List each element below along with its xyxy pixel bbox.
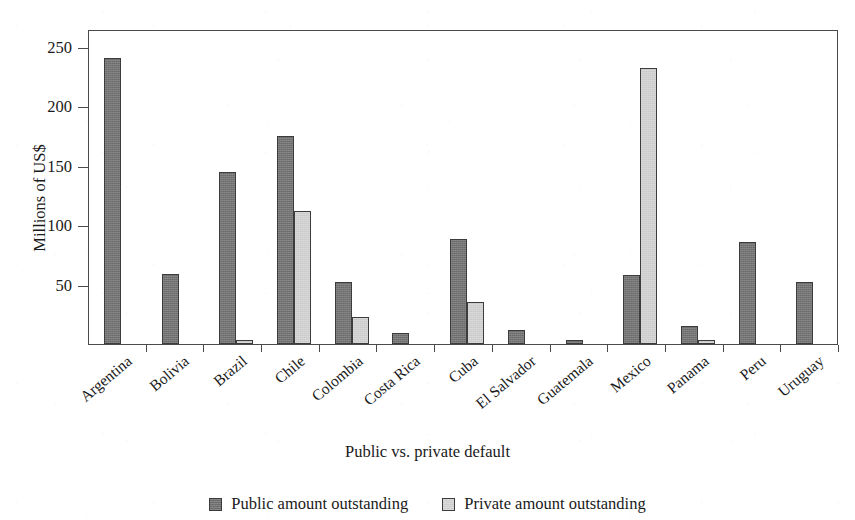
bar-private-chile: [294, 211, 311, 344]
legend-swatch-public-icon: [209, 498, 222, 511]
legend-swatch-private-icon: [442, 498, 455, 511]
x-axis-tick: [376, 345, 377, 352]
bar-private-colombia: [352, 317, 369, 344]
bar-private-panama: [698, 340, 715, 344]
y-axis-tick-label: 150: [30, 157, 72, 177]
y-axis-tick-label: 200: [30, 97, 72, 117]
bars-layer: [89, 31, 837, 344]
y-axis-tick: [78, 48, 89, 49]
bar-public-costa-rica: [392, 333, 409, 344]
bar-public-colombia: [335, 282, 352, 344]
y-axis-tick: [78, 167, 89, 168]
x-axis-tick: [203, 345, 204, 352]
x-axis-tick: [146, 345, 147, 352]
x-axis-tick: [319, 345, 320, 352]
bar-public-chile: [277, 136, 294, 344]
bar-public-cuba: [450, 239, 467, 344]
bar-public-uruguay: [796, 282, 813, 344]
bar-private-cuba: [467, 302, 484, 344]
bar-private-mexico: [640, 68, 657, 344]
bar-public-argentina: [104, 58, 121, 344]
bar-public-panama: [681, 326, 698, 344]
x-axis-tick: [434, 345, 435, 352]
x-axis-tick: [838, 345, 839, 352]
x-axis-tick: [550, 345, 551, 352]
x-axis-tick: [607, 345, 608, 352]
y-axis-tick: [78, 286, 89, 287]
x-axis-tick: [723, 345, 724, 352]
plot-area: [88, 30, 838, 345]
bar-public-brazil: [219, 172, 236, 344]
bar-public-peru: [739, 242, 756, 344]
y-axis-tick-label: 100: [30, 216, 72, 236]
x-axis-tick: [261, 345, 262, 352]
y-axis-tick-label: 50: [30, 276, 72, 296]
x-axis-tick: [665, 345, 666, 352]
bar-public-guatemala: [566, 340, 583, 344]
y-axis-tick-label: 250: [30, 38, 72, 58]
y-axis-tick: [78, 226, 89, 227]
y-axis-tick: [78, 107, 89, 108]
x-axis-tick: [492, 345, 493, 352]
bar-public-el-salvador: [508, 330, 525, 344]
bar-public-mexico: [623, 275, 640, 344]
bar-public-bolivia: [162, 274, 179, 344]
x-axis-tick: [780, 345, 781, 352]
bar-private-brazil: [236, 340, 253, 344]
